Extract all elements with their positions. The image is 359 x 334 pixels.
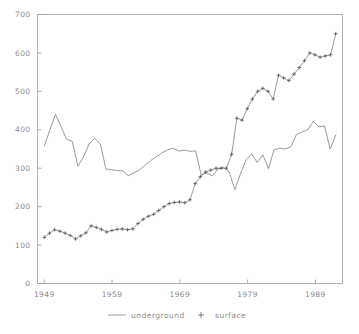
series-markers-surface [42, 32, 337, 241]
y-tick-label: 0 [25, 279, 30, 288]
x-tick-label: 1969 [169, 290, 190, 299]
chart-figure: 0100200300400500600700 19491959196919791… [0, 0, 359, 334]
legend-plus-swatch [198, 312, 204, 318]
x-tick-label: 1989 [305, 290, 326, 299]
x-tick-label: 1949 [34, 290, 55, 299]
y-tick-label: 700 [15, 10, 31, 19]
legend-label-underground: underground [131, 311, 185, 320]
x-tick-label: 1959 [102, 290, 123, 299]
y-tick-label: 600 [15, 49, 31, 58]
y-tick-label: 400 [15, 125, 31, 134]
plot-frame [38, 15, 343, 284]
y-axis-tick-labels: 0100200300400500600700 [15, 10, 31, 288]
y-tick-label: 200 [15, 202, 31, 211]
series-line-surface [44, 34, 335, 239]
x-axis-tick-marks [44, 280, 315, 284]
chart-legend: underground surface [108, 311, 246, 320]
line-chart-canvas: 0100200300400500600700 19491959196919791… [0, 0, 359, 334]
y-tick-label: 500 [15, 87, 31, 96]
y-tick-label: 300 [15, 164, 31, 173]
y-tick-label: 100 [15, 241, 31, 250]
x-tick-label: 1979 [237, 290, 258, 299]
series-line-underground [44, 114, 335, 189]
legend-label-surface: surface [215, 311, 246, 320]
y-axis-tick-marks [38, 15, 42, 284]
x-axis-tick-labels: 19491959196919791989 [34, 290, 326, 299]
